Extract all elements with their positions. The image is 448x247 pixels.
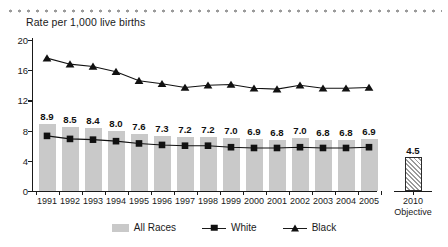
chart-legend: All Races White Black xyxy=(0,222,448,233)
x-axis-label-2004: 2004 xyxy=(336,196,356,206)
legend-label-white: White xyxy=(231,222,257,233)
marker-white xyxy=(159,142,166,149)
marker-white xyxy=(44,133,51,140)
x-axis-label-1991: 1991 xyxy=(37,196,57,206)
x-axis-label-2003: 2003 xyxy=(313,196,333,206)
marker-white xyxy=(274,145,281,152)
x-axis-label-1998: 1998 xyxy=(198,196,218,206)
marker-white xyxy=(320,145,327,152)
marker-white xyxy=(251,145,258,152)
x-axis-label-2010: 2010 xyxy=(403,196,423,206)
triangle-marker-icon xyxy=(283,223,307,232)
plot-area: 048121620 8.98.58.48.07.67.37.27.27.06.9… xyxy=(32,38,432,192)
x-axis-label-objective-sub: Objective xyxy=(394,207,432,217)
marker-white xyxy=(67,136,74,143)
marker-white xyxy=(136,140,143,147)
x-axis-label-2000: 2000 xyxy=(244,196,264,206)
top-dotted-divider xyxy=(6,9,442,13)
y-tick-label: 4 xyxy=(23,155,28,166)
marker-black xyxy=(135,77,144,84)
legend-item-black: Black xyxy=(283,222,336,233)
y-tick-label: 8 xyxy=(23,125,28,136)
marker-white xyxy=(228,144,235,151)
chart-title: Rate per 1,000 live births xyxy=(26,16,145,28)
marker-white xyxy=(205,142,212,149)
x-axis-label-1996: 1996 xyxy=(152,196,172,206)
x-axis-label-1994: 1994 xyxy=(106,196,126,206)
marker-white xyxy=(113,138,120,145)
x-axis-label-1995: 1995 xyxy=(129,196,149,206)
marker-white xyxy=(182,142,189,149)
line-series-layer xyxy=(32,38,432,192)
legend-label-all-races: All Races xyxy=(134,222,176,233)
x-axis-label-2001: 2001 xyxy=(267,196,287,206)
marker-white xyxy=(297,144,304,151)
marker-white xyxy=(343,145,350,152)
x-axis-label-2005: 2005 xyxy=(359,196,379,206)
chart-figure: Rate per 1,000 live births 048121620 8.9… xyxy=(0,0,448,247)
marker-white xyxy=(90,136,97,143)
bar-swatch-icon xyxy=(112,224,129,232)
x-axis-label-1997: 1997 xyxy=(175,196,195,206)
y-tick-label: 12 xyxy=(17,95,28,106)
x-axis-label-1993: 1993 xyxy=(83,196,103,206)
marker-black xyxy=(43,54,52,61)
x-axis-label-1992: 1992 xyxy=(60,196,80,206)
y-tick-label: 16 xyxy=(17,65,28,76)
legend-item-all-races: All Races xyxy=(112,222,176,233)
y-tick-label: 20 xyxy=(17,35,28,46)
marker-black xyxy=(296,81,305,88)
square-marker-icon xyxy=(202,223,226,232)
y-tick-label: 0 xyxy=(23,186,28,197)
legend-label-black: Black xyxy=(312,222,336,233)
x-axis-label-1999: 1999 xyxy=(221,196,241,206)
x-axis-label-2002: 2002 xyxy=(290,196,310,206)
legend-item-white: White xyxy=(202,222,257,233)
marker-white xyxy=(366,144,373,151)
